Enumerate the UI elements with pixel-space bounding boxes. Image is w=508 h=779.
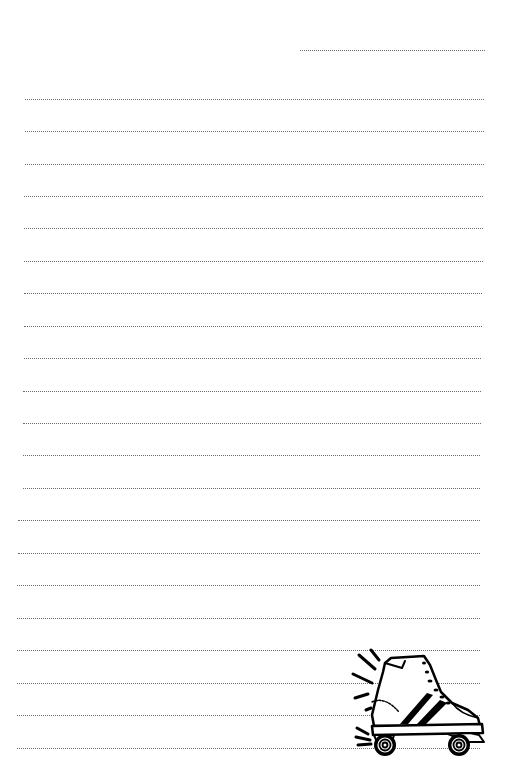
header-line	[300, 50, 485, 51]
ruled-line	[23, 423, 481, 424]
roller-skate-icon	[345, 640, 495, 765]
ruled-line	[23, 455, 480, 456]
wheel-back	[449, 735, 469, 755]
ruled-line	[24, 358, 481, 359]
wheel-front	[375, 735, 395, 755]
ruled-line	[24, 228, 483, 229]
ruled-line	[25, 99, 484, 100]
ruled-line	[24, 293, 482, 294]
ruled-line	[24, 196, 483, 197]
ruled-line	[18, 520, 480, 521]
ruled-line	[25, 131, 484, 132]
notepaper-page	[0, 0, 508, 779]
ruled-line	[25, 164, 484, 165]
ruled-line	[17, 585, 480, 586]
ruled-line	[24, 261, 483, 262]
ruled-line	[24, 326, 482, 327]
ruled-line	[23, 391, 481, 392]
ruled-line	[18, 553, 480, 554]
ruled-line	[23, 488, 480, 489]
ruled-line	[17, 618, 480, 619]
